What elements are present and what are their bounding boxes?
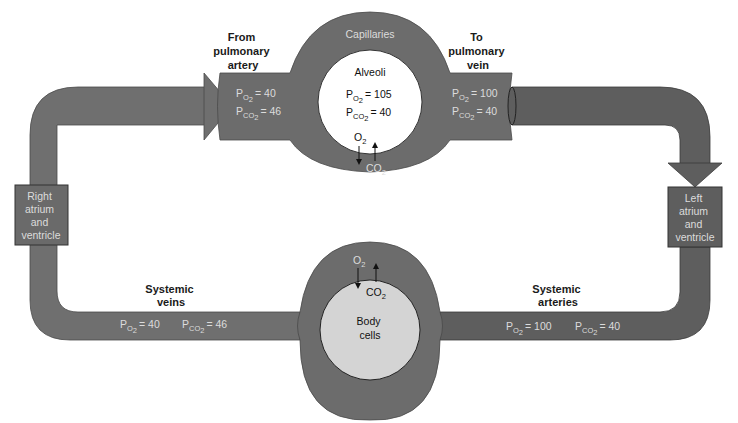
pulmonary-vein-pipe (512, 87, 710, 165)
from-pulmonary-artery-label: From pulmonary artery (213, 31, 272, 71)
alveoli-label: Alveoli (355, 66, 386, 78)
systemic-veins-label: Systemic veins (145, 283, 196, 308)
capillaries-label: Capillaries (345, 28, 394, 40)
pulmonary-vein-valve (508, 87, 516, 125)
to-pulmonary-vein-label: To pulmonary vein (448, 31, 507, 71)
systemic-arteries-label: Systemic arteries (532, 283, 583, 308)
circulation-diagram: Capillaries From pulmonary artery To pul… (0, 0, 738, 423)
arrow-into-left-heart (668, 163, 722, 187)
